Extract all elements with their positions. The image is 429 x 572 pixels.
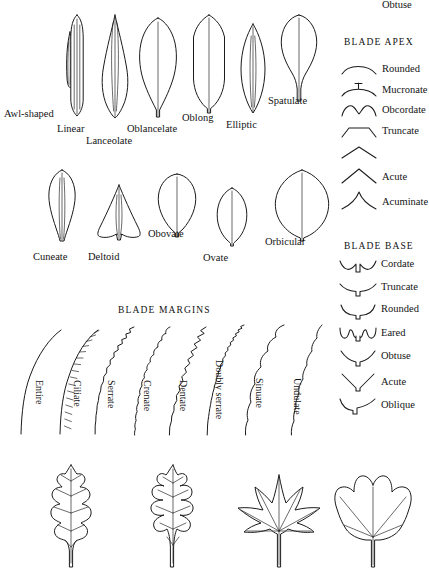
margin-label-crenate: Crenate [142,380,152,411]
leaf-label-ovate: Ovate [203,253,228,264]
base-label-eared: Eared [381,328,405,339]
leaf-figure-deltoid [93,183,145,245]
leaf-label-orbicular: Orbicular [265,237,305,248]
leaf-label-elliptic: Elliptic [226,120,257,131]
leaf-label-lanceolate: Lanceolate [86,136,132,147]
leaf-label-obovate: Obovate [148,229,184,240]
apex-glyph-obcordate [340,103,378,118]
margin-label-doubly-serrate: Doubly serrate [214,360,224,419]
base-label-acute: Acute [381,377,406,388]
apex-glyph-truncate [340,125,378,139]
apex-label-mucronate: Mucronate [382,85,427,96]
lobed-leaf-palmate-tulip [330,473,416,569]
margin-label-undulate: Undulate [292,378,302,415]
leaf-label-deltoid: Deltoid [88,252,120,263]
margin-label-dentate: Dentate [178,380,188,411]
leaf-figure-oblong [186,13,232,115]
base-label-rounded: Rounded [381,304,419,315]
leaf-figure-lanceolate [93,13,137,125]
leaf-label-awl-shaped: Awl-shaped [4,109,54,120]
apex-glyph-rounded [340,62,378,76]
base-glyph-truncate [338,281,378,297]
leaf-label-oblong: Oblong [182,113,214,124]
apex-glyph-acute [340,167,378,185]
leaf-label-oblancelate: Oblancelate [127,124,177,135]
base-glyph-oblique [338,397,378,415]
base-glyph-rounded [338,303,378,320]
base-glyph-eared [338,326,378,343]
leaf-label-spatulate: Spatulate [268,96,307,107]
apex-label-obcordate: Obcordate [382,105,426,116]
base-glyph-acute [338,372,378,392]
base-label-oblique: Oblique [381,400,415,411]
apex-glyph-acuminate [340,191,378,211]
leaf-figure-spatulate [277,13,321,103]
base-label-obtuse: Obtuse [381,351,411,362]
base-glyph-cordate [338,258,378,274]
margin-label-sinuate: Sinuate [254,378,264,408]
base-glyph-obtuse [338,349,378,367]
leaf-figure-ovate [212,186,252,248]
leaf-figure-linear [64,13,90,119]
leaf-figure-cuneate [41,168,83,244]
leaf-figure-orbicular [271,168,333,244]
apex-label-rounded: Rounded [382,64,420,75]
lobed-leaf-palmate-maple [234,473,324,569]
apex-label-obtuse: Obtuse [382,0,412,11]
leaf-figure-oblancelate [134,16,182,120]
margin-label-serrate: Serrate [106,380,116,408]
blade-base-heading: BLADE BASE [344,242,414,252]
lobed-leaf-pinnate-deep [140,463,206,569]
leaf-figure-elliptic [234,22,272,116]
lobed-leaf-pinnate-shallow [40,463,102,569]
leaf-label-cuneate: Cuneate [33,252,67,263]
blade-apex-heading: BLADE APEX [344,38,414,48]
leaf-label-linear: Linear [57,124,84,135]
margin-label-ciliate: Ciliate [72,380,82,407]
leaf-morphology-plate: Awl-shaped Linear Lanceolate Oblancelate [0,0,429,572]
apex-glyph-obtuse [340,145,378,160]
margin-label-entire: Entire [34,380,44,404]
apex-label-acute: Acute [382,172,407,183]
apex-label-acuminate: Acuminate [382,197,428,208]
apex-glyph-mucronate [340,82,378,98]
base-label-cordate: Cordate [381,259,414,270]
base-label-truncate: Truncate [381,282,418,293]
apex-label-truncate: Truncate [382,126,419,137]
blade-margins-heading: BLADE MARGINS [118,306,211,316]
